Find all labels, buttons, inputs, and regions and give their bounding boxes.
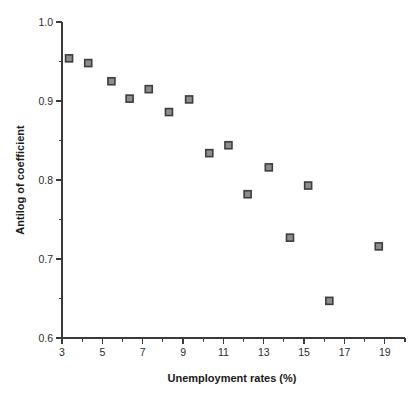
x-tick-label: 9	[180, 346, 186, 358]
data-point-marker	[85, 60, 92, 67]
scatter-chart-figure: 0.60.70.80.91.0 35791113151719 Unemploym…	[0, 0, 419, 402]
data-point-marker	[375, 243, 382, 250]
data-point-marker	[186, 96, 193, 103]
x-tick-label: 13	[258, 346, 270, 358]
data-point-marker	[66, 55, 73, 62]
plot-canvas: 0.60.70.80.91.0 35791113151719 Unemploym…	[0, 0, 419, 402]
data-point-marker	[265, 164, 272, 171]
y-axis: 0.60.70.80.91.0	[38, 16, 62, 344]
data-points	[66, 55, 383, 305]
data-point-marker	[108, 78, 115, 85]
data-point-marker	[225, 142, 232, 149]
data-point-marker	[286, 234, 293, 241]
x-axis: 35791113151719	[59, 338, 405, 358]
x-tick-label: 3	[59, 346, 65, 358]
x-tick-label: 17	[339, 346, 351, 358]
data-point-marker	[206, 150, 213, 157]
y-tick-label: 0.8	[38, 174, 53, 186]
data-point-marker	[326, 297, 333, 304]
y-tick-label: 1.0	[38, 16, 53, 28]
y-tick-label: 0.9	[38, 95, 53, 107]
data-point-marker	[165, 109, 172, 116]
x-tick-label: 7	[140, 346, 146, 358]
data-point-marker	[244, 191, 251, 198]
x-tick-label: 15	[298, 346, 310, 358]
x-tick-label: 11	[218, 346, 229, 358]
data-point-marker	[126, 95, 133, 102]
y-axis-title: Antilog of coefficient	[14, 125, 26, 235]
y-tick-label: 0.6	[38, 332, 53, 344]
x-tick-label: 19	[379, 346, 391, 358]
data-point-marker	[145, 86, 152, 93]
data-point-marker	[305, 182, 312, 189]
x-axis-title: Unemployment rates (%)	[168, 372, 297, 384]
y-tick-label: 0.7	[38, 253, 53, 265]
x-tick-label: 5	[99, 346, 105, 358]
